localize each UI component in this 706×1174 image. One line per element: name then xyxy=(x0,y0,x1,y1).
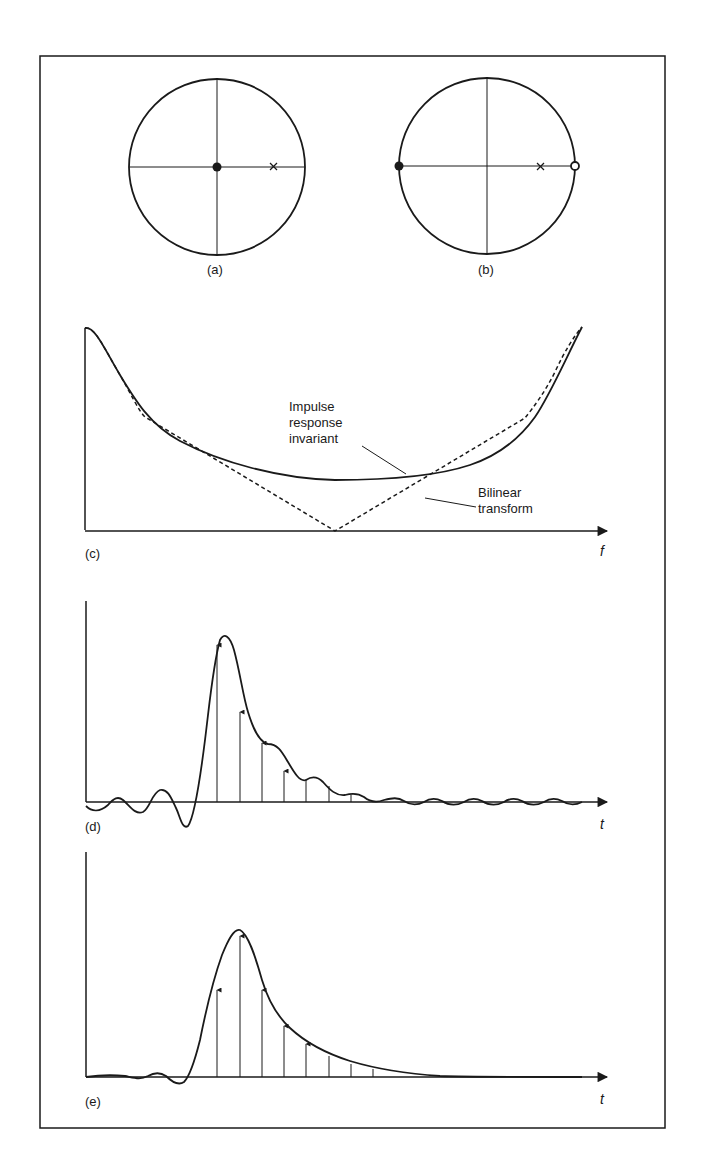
impulse-annotation-line3: invariant xyxy=(289,431,339,446)
panel-a-label: (a) xyxy=(207,262,223,277)
bilinear-annotation-line2: transform xyxy=(478,501,533,516)
panel-d-label: (d) xyxy=(85,819,101,834)
panel-d-impulse-response: (d) t xyxy=(85,601,607,834)
continuous-response-curve xyxy=(86,636,582,827)
panel-b-label: (b) xyxy=(478,262,494,277)
continuous-response-curve xyxy=(86,930,582,1084)
panel-e-label: (e) xyxy=(85,1094,101,1109)
panel-b-pole-zero-plot: (b) xyxy=(395,78,580,277)
impulse-annotation-line2: response xyxy=(289,415,342,430)
x-axis-label-t: t xyxy=(600,816,605,832)
panel-c-label: (c) xyxy=(85,546,100,561)
zero-marker-open xyxy=(571,162,579,170)
zero-marker xyxy=(213,163,222,172)
sample-stems xyxy=(217,645,351,802)
figure-frame xyxy=(40,56,665,1128)
zero-marker-filled xyxy=(395,162,404,171)
figure: (a) (b) Impulse response invariant Bilin… xyxy=(0,0,706,1174)
panel-e-impulse-response: (e) t xyxy=(85,852,607,1109)
panel-c-frequency-response: Impulse response invariant Bilinear tran… xyxy=(85,327,607,561)
panel-a-pole-zero-plot: (a) xyxy=(129,79,305,277)
bilinear-annotation-line1: Bilinear xyxy=(478,485,522,500)
x-axis-label-f: f xyxy=(600,543,606,559)
x-axis-label-t: t xyxy=(600,1091,605,1107)
impulse-annotation-line1: Impulse xyxy=(289,399,335,414)
sample-stems xyxy=(217,936,373,1077)
